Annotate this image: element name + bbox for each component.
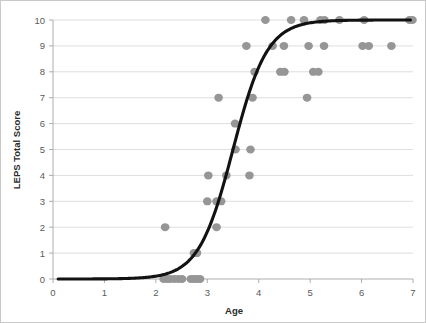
x-tick-label: 0 xyxy=(50,287,55,298)
data-point-marker xyxy=(364,42,373,50)
data-point-marker xyxy=(304,42,313,50)
x-tick-label: 3 xyxy=(205,287,210,298)
x-tick-label: 2 xyxy=(153,287,158,298)
x-tick-label: 6 xyxy=(359,287,364,298)
data-point-marker xyxy=(196,275,205,283)
y-tick-marks xyxy=(49,20,53,279)
scatter-plot: 01234567 012345678910 Age LEPS Total Sco… xyxy=(1,1,426,323)
y-tick-label: 10 xyxy=(34,15,45,26)
y-axis-title: LEPS Total Score xyxy=(11,111,22,189)
x-tick-label: 5 xyxy=(307,287,312,298)
x-tick-labels: 01234567 xyxy=(50,287,415,298)
y-tick-labels: 012345678910 xyxy=(34,15,45,285)
gridlines xyxy=(53,20,413,253)
data-point-marker xyxy=(320,42,329,50)
y-tick-label: 9 xyxy=(40,40,45,51)
x-tick-label: 7 xyxy=(410,287,415,298)
data-point-marker xyxy=(214,94,223,102)
data-point-marker xyxy=(314,68,323,76)
data-point-marker xyxy=(204,171,213,179)
x-tick-label: 1 xyxy=(102,287,107,298)
data-point-marker xyxy=(280,42,289,50)
y-tick-label: 5 xyxy=(40,144,45,155)
data-point-marker xyxy=(387,42,396,50)
data-point-marker xyxy=(303,94,312,102)
y-tick-label: 7 xyxy=(40,92,45,103)
data-point-marker xyxy=(178,275,187,283)
x-tick-label: 4 xyxy=(256,287,261,298)
data-point-marker xyxy=(203,197,212,205)
data-point-marker xyxy=(280,68,289,76)
y-tick-label: 1 xyxy=(40,248,45,259)
y-tick-label: 0 xyxy=(40,274,45,285)
data-point-marker xyxy=(261,16,270,24)
chart-figure: 01234567 012345678910 Age LEPS Total Sco… xyxy=(0,0,426,323)
data-point-marker xyxy=(242,42,251,50)
data-point-marker xyxy=(246,146,255,154)
data-point-marker xyxy=(161,223,170,231)
y-tick-label: 3 xyxy=(40,196,45,207)
y-tick-label: 2 xyxy=(40,222,45,233)
y-tick-label: 6 xyxy=(40,118,45,129)
x-axis-title: Age xyxy=(225,305,243,316)
y-tick-label: 8 xyxy=(40,66,45,77)
data-point-marker xyxy=(245,171,254,179)
data-point-marker xyxy=(212,223,221,231)
y-tick-label: 4 xyxy=(40,170,45,181)
data-point-marker xyxy=(287,16,296,24)
